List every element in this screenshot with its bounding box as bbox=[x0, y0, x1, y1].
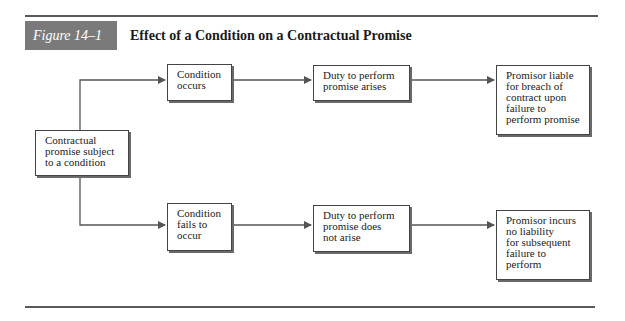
node-duty-arises: Duty to perform promise arises bbox=[313, 65, 410, 101]
bottom-rule bbox=[25, 306, 595, 308]
node-start: Contractual promise subject to a conditi… bbox=[35, 130, 129, 176]
node-condition-fails: Condition fails to occur bbox=[167, 203, 232, 251]
edge-start-to-condition-fails bbox=[80, 176, 165, 225]
node-condition-occurs: Condition occurs bbox=[167, 64, 232, 101]
node-no-liability: Promisor incurs no liability for subsequ… bbox=[496, 210, 590, 280]
edge-start-to-condition-occurs bbox=[80, 80, 165, 130]
node-promisor-liable: Promisor liable for breach of contract u… bbox=[496, 65, 590, 135]
node-duty-not-arise: Duty to perform promise does not arise bbox=[313, 205, 410, 252]
